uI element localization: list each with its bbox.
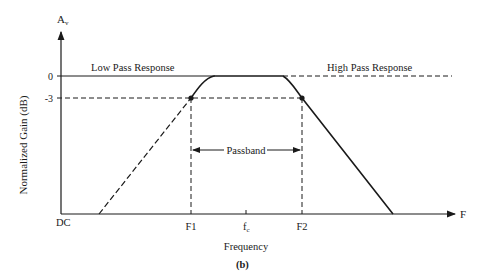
y-axis-symbol: Av bbox=[57, 13, 69, 27]
origin-label: DC bbox=[56, 217, 71, 228]
low-pass-slope bbox=[99, 98, 191, 214]
bandpass-diagram: Av 0 -3 Normalized Gain (dB) Low Pass Re… bbox=[0, 0, 484, 280]
y-tick-0: 0 bbox=[48, 71, 53, 82]
x-axis-label: Frequency bbox=[224, 241, 269, 252]
high-pass-label: High Pass Response bbox=[327, 62, 413, 73]
bandpass-curve bbox=[191, 76, 393, 214]
figure-caption: (b) bbox=[236, 259, 249, 271]
x-tick-fc: fc bbox=[243, 221, 250, 234]
y-tick-minus3: -3 bbox=[45, 93, 53, 104]
x-tick-f2: F2 bbox=[296, 221, 307, 232]
x-axis-symbol: F bbox=[460, 208, 466, 220]
f1-3db-point bbox=[188, 95, 193, 100]
y-axis-label: Normalized Gain (dB) bbox=[17, 95, 30, 194]
low-pass-label: Low Pass Response bbox=[91, 62, 175, 73]
x-tick-f1: F1 bbox=[185, 221, 196, 232]
passband-label: Passband bbox=[226, 145, 266, 156]
f2-3db-point bbox=[299, 95, 304, 100]
